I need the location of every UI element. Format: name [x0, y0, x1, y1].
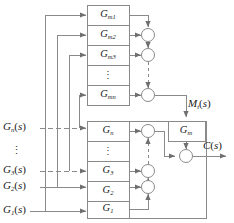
input-vdots: ⋮: [11, 145, 22, 156]
signal-label-cs: C(s): [203, 140, 222, 151]
input-label-gn-text: Gn(s): [3, 120, 26, 132]
sum-bottom-2: [142, 181, 155, 194]
signal-label-mt: Mt(s): [188, 98, 211, 111]
block-label-gm2: Gm2: [100, 29, 116, 40]
sum-output: [180, 150, 193, 163]
top-output-paths: [129, 15, 186, 117]
input-label-gn: Gn(s): [3, 121, 26, 134]
block-label-g3: G3: [103, 165, 114, 176]
input-label-g2: G2(s): [3, 180, 26, 193]
bottom-block-inputs: [80, 128, 86, 211]
block-label-g2: G2: [103, 185, 114, 196]
input-label-g3: G3(s): [3, 164, 26, 177]
block-label-gm-feedback: Gm: [180, 125, 192, 136]
top-block-inputs: [80, 15, 86, 95]
sum-bottom-n: [142, 125, 155, 138]
block-label-gmn: Gmn: [100, 89, 116, 100]
diagram-canvas: [0, 0, 234, 223]
input-stubs: [30, 128, 86, 211]
sum-top-n: [142, 89, 155, 102]
block-label-gm3: Gm3: [100, 49, 116, 60]
sum-top-2: [142, 49, 155, 62]
block-diagram-figure: Gn(s) ⋮ G3(s) G2(s) G1(s) Gm1 Gm2 Gm3 ⋮ …: [0, 0, 234, 223]
sum-top-1: [142, 29, 155, 42]
block-vdots-bottom: ⋮: [103, 146, 113, 156]
block-vdots-top: ⋮: [103, 70, 113, 80]
routing-risers: [45, 15, 86, 211]
block-label-gm1: Gm1: [100, 9, 116, 20]
sum-bottom-3: [142, 165, 155, 178]
input-label-g1: G1(s): [3, 204, 26, 217]
block-label-g1: G1: [103, 203, 114, 214]
block-label-gn: Gn: [103, 125, 114, 136]
summing-junctions: [142, 29, 193, 194]
